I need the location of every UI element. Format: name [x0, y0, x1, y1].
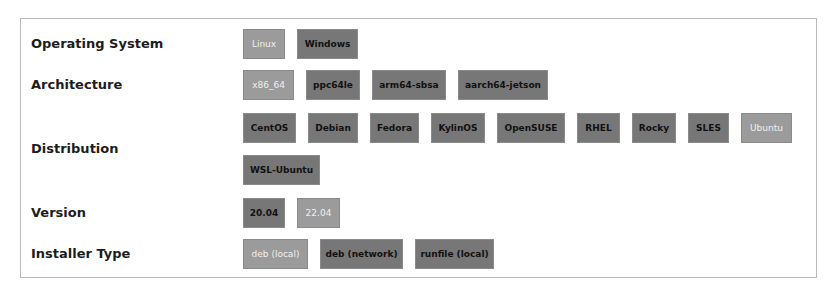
- option-fedora[interactable]: Fedora: [370, 113, 419, 143]
- option-20-04[interactable]: 20.04: [243, 198, 285, 228]
- options-architecture: x86_64 ppc64le arm64-sbsa aarch64-jetson: [243, 70, 803, 100]
- option-opensuse[interactable]: OpenSUSE: [497, 113, 565, 143]
- options-installer-type: deb (local) deb (network) runfile (local…: [243, 239, 803, 269]
- option-linux[interactable]: Linux: [243, 29, 285, 59]
- row-label: Distribution: [31, 141, 118, 156]
- option-ppc64le[interactable]: ppc64le: [306, 70, 360, 100]
- option-kylinos[interactable]: KylinOS: [431, 113, 485, 143]
- row-label: Architecture: [31, 77, 122, 92]
- option-rocky[interactable]: Rocky: [632, 113, 676, 143]
- option-sles[interactable]: SLES: [688, 113, 729, 143]
- row-version: Version 20.04 22.04: [21, 198, 816, 228]
- installer-selector-panel: Operating System Linux Windows Architect…: [20, 18, 817, 278]
- option-runfile-local[interactable]: runfile (local): [415, 239, 494, 269]
- option-deb-network[interactable]: deb (network): [320, 239, 403, 269]
- option-aarch64-jetson[interactable]: aarch64-jetson: [458, 70, 548, 100]
- row-installer-type: Installer Type deb (local) deb (network)…: [21, 239, 816, 269]
- option-x86-64[interactable]: x86_64: [243, 70, 294, 100]
- options-version: 20.04 22.04: [243, 198, 803, 228]
- option-deb-local[interactable]: deb (local): [243, 239, 308, 269]
- row-label: Operating System: [31, 36, 163, 51]
- option-centos[interactable]: CentOS: [243, 113, 296, 143]
- row-distribution: Distribution CentOS Debian Fedora KylinO…: [21, 113, 816, 187]
- option-wsl-ubuntu[interactable]: WSL-Ubuntu: [243, 155, 320, 185]
- option-arm64-sbsa[interactable]: arm64-sbsa: [372, 70, 446, 100]
- option-22-04[interactable]: 22.04: [297, 198, 340, 228]
- row-label: Version: [31, 205, 86, 220]
- options-distribution: CentOS Debian Fedora KylinOS OpenSUSE RH…: [243, 113, 803, 185]
- row-label: Installer Type: [31, 246, 130, 261]
- option-debian[interactable]: Debian: [308, 113, 358, 143]
- row-operating-system: Operating System Linux Windows: [21, 29, 816, 59]
- options-operating-system: Linux Windows: [243, 29, 803, 59]
- option-rhel[interactable]: RHEL: [577, 113, 620, 143]
- option-ubuntu[interactable]: Ubuntu: [741, 113, 792, 143]
- row-architecture: Architecture x86_64 ppc64le arm64-sbsa a…: [21, 70, 816, 100]
- option-windows[interactable]: Windows: [297, 29, 358, 59]
